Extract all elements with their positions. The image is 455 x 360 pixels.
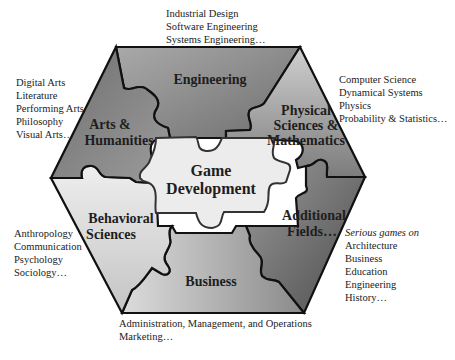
hexagon-diagram: Engineering Physical Sciences & Mathemat… [0, 0, 455, 360]
list-heading: Serious games on [345, 226, 419, 239]
list-item: Systems Engineering… [166, 33, 265, 46]
list-item: Marketing… [119, 330, 312, 343]
list-item: Dynamical Systems [339, 86, 448, 99]
list-item: Digital Arts [16, 76, 84, 89]
list-item: Performing Arts [16, 102, 84, 115]
list-item: Education [345, 265, 419, 278]
additional-label-line1: Additional [282, 208, 346, 223]
list-additional-fields: Serious games on Architecture Business E… [345, 226, 419, 304]
engineering-label: Engineering [173, 72, 246, 87]
list-item: Administration, Management, and Operatio… [119, 317, 312, 330]
list-item: Software Engineering [166, 20, 265, 33]
list-engineering: Industrial Design Software Engineering S… [166, 7, 265, 46]
list-item: History… [345, 291, 419, 304]
list-business: Administration, Management, and Operatio… [119, 317, 312, 343]
additional-label-line2: Fields… [287, 224, 337, 239]
list-item: Sociology… [14, 266, 82, 279]
physical-label-line1: Physical [281, 103, 331, 118]
physical-label-line2: Sciences & [274, 118, 339, 133]
label-business: Business [185, 274, 237, 289]
behavioral-label-line1: Behavioral [88, 211, 153, 226]
center-label-line1: Game [191, 162, 232, 179]
list-item: Architecture [345, 239, 419, 252]
physical-label-line3: Mathematics [267, 133, 345, 148]
list-item: Visual Arts… [16, 128, 84, 141]
list-item: Communication [14, 240, 82, 253]
business-label: Business [185, 274, 237, 289]
arts-label-line2: Humanities [84, 133, 154, 148]
list-item: Physics [339, 99, 448, 112]
list-item: Literature [16, 89, 84, 102]
arts-label-line1: Arts & [89, 117, 131, 132]
list-item: Business [345, 252, 419, 265]
label-engineering: Engineering [173, 72, 246, 87]
list-behavioral-sciences: Anthropology Communication Psychology So… [14, 227, 82, 279]
list-item: Philosophy [16, 115, 84, 128]
label-additional-fields: Additional Fields… [282, 208, 346, 239]
list-item: Probability & Statistics… [339, 112, 448, 125]
list-arts: Digital Arts Literature Performing Arts … [16, 76, 84, 141]
center-label-line2: Development [166, 180, 256, 198]
list-item: Psychology [14, 253, 82, 266]
list-item: Engineering [345, 278, 419, 291]
list-item: Anthropology [14, 227, 82, 240]
list-item: Industrial Design [166, 7, 265, 20]
behavioral-label-line2: Sciences [86, 227, 136, 242]
list-item: Computer Science [339, 73, 448, 86]
list-physical-sciences: Computer Science Dynamical Systems Physi… [339, 73, 448, 125]
